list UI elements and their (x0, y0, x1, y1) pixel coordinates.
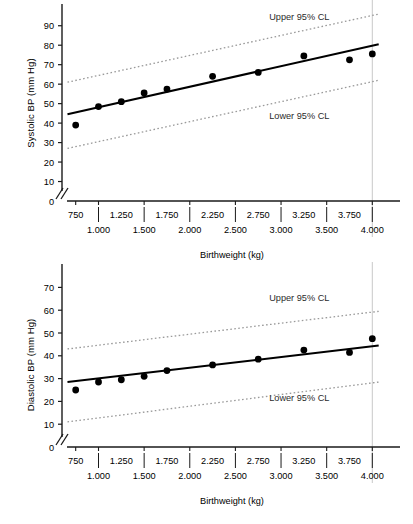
y-axis-tick-label: 20 (44, 397, 54, 407)
y-axis-tick-label: 70 (44, 283, 54, 293)
y-axis-tick-label: 60 (44, 306, 54, 316)
chart-panel-diastolic: Diastolic BP (mm Hg) 0102030405060707501… (0, 262, 413, 524)
axis-break-marker (56, 188, 68, 199)
x-axis-tick-label: 2.500 (224, 225, 247, 235)
y-axis-tick-label: 60 (44, 80, 54, 90)
data-point (346, 349, 353, 356)
y-axis-tick-label: 30 (44, 138, 54, 148)
y-axis-tick-label: 80 (44, 41, 54, 51)
data-point-group (72, 51, 375, 129)
chart-panel-systolic: Systolic BP (mm Hg) 01020304050607080907… (0, 0, 413, 262)
y-axis-tick-label: 10 (44, 177, 54, 187)
x-axis-tick-label: 4.000 (361, 471, 384, 481)
y-axis-tick-label: 30 (44, 374, 54, 384)
x-axis-bin-label: 750 (68, 210, 83, 220)
data-point (300, 53, 307, 60)
upper-confidence-limit-line (67, 14, 378, 82)
regression-line (67, 346, 378, 382)
y-axis-tick-label: 0 (49, 197, 54, 207)
y-axis-tick-label: 70 (44, 60, 54, 70)
data-point (346, 56, 353, 63)
regression-line (67, 44, 378, 114)
x-axis-bin-label: 2.750 (247, 456, 270, 466)
data-point (72, 122, 79, 129)
x-axis-tick-label: 2.500 (224, 471, 247, 481)
x-axis-tick-label: 4.000 (361, 225, 384, 235)
x-axis-bin-label: 3.750 (338, 456, 361, 466)
data-point (300, 347, 307, 354)
x-axis-title: Birthweight (kg) (200, 250, 264, 260)
x-axis-tick-label: 1.000 (87, 471, 110, 481)
x-axis-bin-label: 2.250 (201, 210, 224, 220)
x-axis-bin-label: 1.250 (110, 210, 133, 220)
upper-confidence-limit-line (67, 311, 378, 349)
y-axis-tick-label: 40 (44, 351, 54, 361)
data-point (164, 86, 171, 93)
y-axis-tick-label: 50 (44, 99, 54, 109)
x-axis-tick-label: 3.000 (270, 471, 293, 481)
lower-confidence-limit-label: Lower 95% CL (269, 111, 329, 121)
x-axis-tick-label: 3.500 (315, 225, 338, 235)
lower-confidence-limit-line (67, 80, 378, 148)
data-point (95, 379, 102, 386)
data-point (369, 51, 376, 58)
data-point (95, 103, 102, 110)
y-axis-tick-label: 90 (44, 21, 54, 31)
data-point (164, 367, 171, 374)
x-axis-tick-label: 1.500 (133, 471, 156, 481)
data-point (141, 373, 148, 380)
lower-confidence-limit-line (67, 382, 378, 422)
x-axis-title: Birthweight (kg) (200, 496, 264, 506)
x-axis-bin-label: 2.250 (201, 456, 224, 466)
x-axis-tick-label: 1.500 (133, 225, 156, 235)
data-point (255, 356, 262, 363)
birthweight-blood-pressure-figure: Systolic BP (mm Hg) 01020304050607080907… (0, 0, 413, 524)
x-axis-tick-label: 3.500 (315, 471, 338, 481)
data-point (255, 69, 262, 76)
lower-confidence-limit-label: Lower 95% CL (269, 393, 329, 403)
x-axis-tick-label: 1.000 (87, 225, 110, 235)
x-axis-tick-label: 2.000 (178, 225, 201, 235)
x-axis-bin-label: 1.750 (155, 456, 178, 466)
x-axis-bin-label: 2.750 (247, 210, 270, 220)
plot-area-systolic: 01020304050607080907501.2501.7502.2502.7… (0, 0, 413, 262)
x-axis-tick-label: 2.000 (178, 471, 201, 481)
plot-area-diastolic: 0102030405060707501.2501.7502.2502.7503.… (0, 262, 413, 524)
y-axis-tick-label: 0 (49, 443, 54, 453)
x-axis-tick-label: 3.000 (270, 225, 293, 235)
y-axis-tick-label: 10 (44, 420, 54, 430)
data-point (118, 376, 125, 383)
data-point (209, 73, 216, 80)
x-axis-bin-label: 3.250 (292, 210, 315, 220)
x-axis-bin-label: 3.250 (292, 456, 315, 466)
y-axis-tick-label: 20 (44, 158, 54, 168)
y-axis-tick-label: 50 (44, 329, 54, 339)
data-point (72, 387, 79, 394)
axis-break-marker (56, 434, 68, 445)
upper-confidence-limit-label: Upper 95% CL (269, 293, 329, 303)
data-point (118, 98, 125, 105)
upper-confidence-limit-label: Upper 95% CL (269, 12, 329, 22)
x-axis-bin-label: 750 (68, 456, 83, 466)
x-axis-bin-label: 3.750 (338, 210, 361, 220)
y-axis-tick-label: 40 (44, 119, 54, 129)
data-point (141, 90, 148, 97)
x-axis-bin-label: 1.250 (110, 456, 133, 466)
data-point (209, 362, 216, 369)
x-axis-bin-label: 1.750 (155, 210, 178, 220)
data-point (369, 335, 376, 342)
